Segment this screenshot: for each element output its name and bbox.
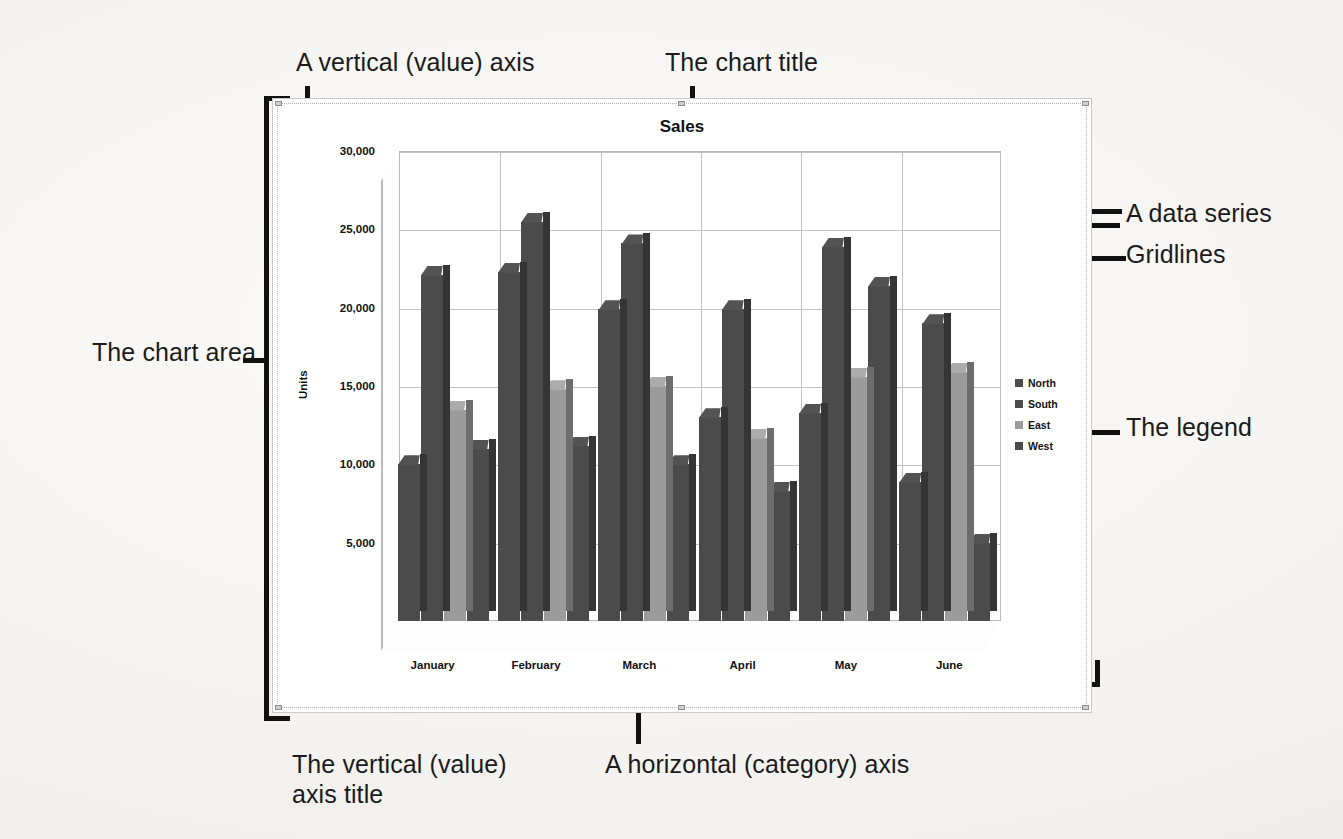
bar-side-face xyxy=(689,454,696,611)
bar[interactable] xyxy=(899,482,921,621)
bar-side-face xyxy=(520,262,527,611)
bar-group[interactable] xyxy=(799,151,890,621)
bar-group[interactable] xyxy=(598,151,689,621)
chart-legend[interactable]: NorthSouthEastWest xyxy=(1015,377,1058,461)
bar-top-face xyxy=(421,266,443,276)
category-axis-tick-label: March xyxy=(588,659,691,671)
leader-category-axis-right xyxy=(1095,660,1100,687)
bar-top-face xyxy=(699,408,721,418)
bar-front-face xyxy=(899,482,921,621)
annotation-vertical-axis-title: The vertical (value) axis title xyxy=(292,750,507,809)
bar-side-face xyxy=(890,276,897,611)
bar-side-face xyxy=(844,237,851,611)
bar-front-face xyxy=(699,417,721,621)
bar-side-face xyxy=(566,379,573,611)
bar-top-face xyxy=(621,234,643,244)
bar-side-face xyxy=(443,265,450,611)
bar-top-face xyxy=(822,238,844,248)
value-axis-tick-label: 30,000 xyxy=(340,145,375,157)
leader-chart-area-bracket xyxy=(264,96,269,721)
legend-entry[interactable]: East xyxy=(1015,419,1058,431)
annotation-chart-area: The chart area xyxy=(92,338,256,368)
value-axis-title[interactable]: Units xyxy=(297,370,309,399)
chart-object[interactable]: Sales Units 5,00010,00015,00020,00025,00… xyxy=(272,98,1092,713)
bar-side-face xyxy=(666,376,673,611)
bar-front-face xyxy=(398,464,420,621)
bar-side-face xyxy=(466,400,473,612)
legend-entry-label: South xyxy=(1028,398,1058,410)
bar-side-face xyxy=(721,407,728,611)
legend-entry[interactable]: South xyxy=(1015,398,1058,410)
legend-swatch-icon xyxy=(1015,421,1023,429)
bar-group[interactable] xyxy=(899,151,990,621)
bar-top-face xyxy=(521,213,543,223)
bar-top-face xyxy=(498,263,520,273)
legend-swatch-icon xyxy=(1015,400,1023,408)
bar[interactable] xyxy=(498,272,520,621)
annotation-horizontal-category-axis: A horizontal (category) axis xyxy=(605,750,909,780)
bar-front-face xyxy=(799,413,821,621)
bar-side-face xyxy=(767,428,774,611)
selection-handle-bottom-left[interactable] xyxy=(275,705,282,710)
bar[interactable] xyxy=(699,417,721,621)
bar-group[interactable] xyxy=(699,151,790,621)
bar-side-face xyxy=(821,403,828,611)
bar[interactable] xyxy=(398,464,420,621)
legend-swatch-icon xyxy=(1015,442,1023,450)
bar-side-face xyxy=(543,212,550,612)
bar-side-face xyxy=(489,439,496,611)
bar-side-face xyxy=(790,481,797,611)
bar-group[interactable] xyxy=(398,151,489,621)
bar-front-face xyxy=(598,309,620,621)
bar-side-face xyxy=(744,299,751,611)
bar[interactable] xyxy=(799,413,821,621)
legend-entry[interactable]: West xyxy=(1015,440,1058,452)
bar-side-face xyxy=(921,472,928,611)
value-axis-tick-label: 10,000 xyxy=(340,458,375,470)
selection-handle-top-center[interactable] xyxy=(678,101,685,106)
value-axis-tick-label: 25,000 xyxy=(340,223,375,235)
annotation-legend: The legend xyxy=(1126,413,1252,443)
legend-entry-label: East xyxy=(1028,419,1050,431)
value-axis-tick-label: 15,000 xyxy=(340,380,375,392)
bar-front-face xyxy=(498,272,520,621)
category-axis-tick-label: May xyxy=(794,659,897,671)
bar-side-face xyxy=(867,367,874,611)
bar-top-face xyxy=(799,404,821,414)
legend-swatch-icon xyxy=(1015,379,1023,387)
annotation-chart-title: The chart title xyxy=(665,48,818,78)
bar-top-face xyxy=(722,300,744,310)
bar-top-face xyxy=(398,455,420,465)
selection-handle-top-right[interactable] xyxy=(1082,101,1089,106)
bar-group[interactable] xyxy=(498,151,589,621)
selection-handle-top-left[interactable] xyxy=(275,101,282,106)
leader-chart-area-bottom xyxy=(264,716,290,721)
bar-top-face xyxy=(899,473,921,483)
bar-side-face xyxy=(990,533,997,611)
value-axis-tick-label: 5,000 xyxy=(346,537,375,549)
legend-entry-label: West xyxy=(1028,440,1053,452)
category-axis-tick-labels[interactable]: JanuaryFebruaryMarchAprilMayJune xyxy=(381,659,1001,671)
selection-handle-bottom-right[interactable] xyxy=(1082,705,1089,710)
plot-area[interactable] xyxy=(381,151,1001,651)
bar-top-face xyxy=(598,300,620,310)
bar-side-face xyxy=(589,436,596,611)
legend-entry-label: North xyxy=(1028,377,1056,389)
annotation-gridlines: Gridlines xyxy=(1126,240,1226,270)
value-axis-tick-labels[interactable]: 5,00010,00015,00020,00025,00030,000 xyxy=(313,151,375,651)
category-axis-tick-label: January xyxy=(381,659,484,671)
category-axis-tick-label: April xyxy=(691,659,794,671)
bar[interactable] xyxy=(598,309,620,621)
selection-handle-bottom-center[interactable] xyxy=(678,705,685,710)
category-axis-tick-label: February xyxy=(484,659,587,671)
bar-top-face xyxy=(922,314,944,324)
bar-side-face xyxy=(643,233,650,611)
chart-title[interactable]: Sales xyxy=(273,117,1091,137)
legend-entry[interactable]: North xyxy=(1015,377,1058,389)
bar-side-face xyxy=(420,454,427,611)
data-series-bars[interactable] xyxy=(381,151,1001,651)
bar-side-face xyxy=(620,299,627,611)
annotation-vertical-value-axis: A vertical (value) axis xyxy=(296,48,535,78)
bar-side-face xyxy=(967,362,974,611)
bar-side-face xyxy=(944,313,951,611)
